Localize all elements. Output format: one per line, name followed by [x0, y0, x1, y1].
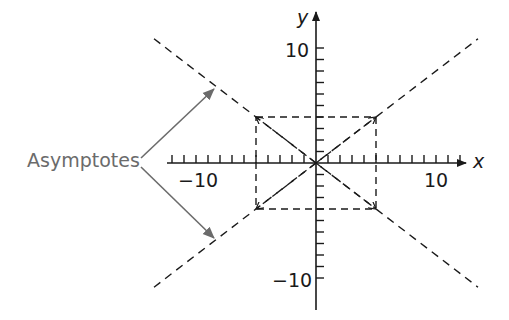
hyperbola-diagram: y x −10 10 10 −10 Asymptotes [0, 0, 509, 320]
callout-arrow-upper [141, 89, 214, 158]
y-tick-label-neg10: −10 [272, 271, 312, 290]
asymptotes-callout-label: Asymptotes [27, 151, 140, 170]
x-axis-label: x [473, 152, 484, 171]
y-tick-label-10: 10 [285, 41, 309, 60]
x-tick-label-neg10: −10 [178, 171, 218, 190]
y-axis-label: y [297, 8, 308, 27]
x-tick-label-10: 10 [424, 171, 448, 190]
